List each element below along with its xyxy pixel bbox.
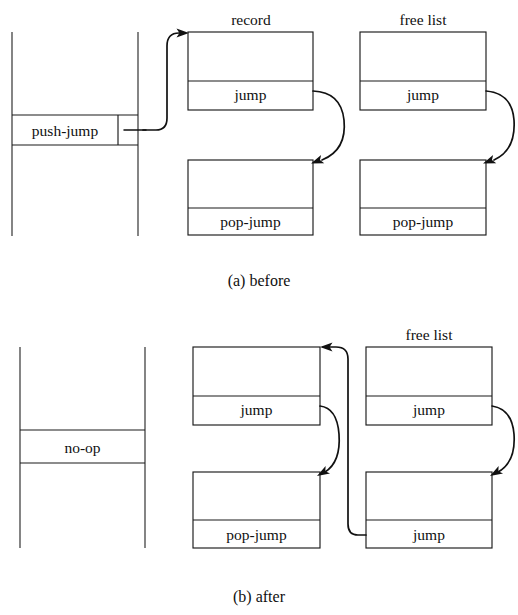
record-node-bottom-label: pop-jump	[226, 526, 287, 543]
link-record-curve	[320, 406, 339, 472]
link-freelist-bottom-to-record-top-after	[320, 343, 366, 535]
panel-before: push-jump record free list jump pop-jump	[12, 11, 514, 290]
record-node-top-label: jump	[240, 401, 273, 418]
link-record-arrowhead	[315, 466, 330, 480]
link-freelist-arrowhead	[481, 155, 496, 168]
freelist-node-top-after[interactable]: jump	[366, 347, 492, 425]
freelist-node-top-label: jump	[412, 401, 445, 418]
record-node-bottom-label: pop-jump	[220, 213, 281, 230]
caption-after: (b) after	[233, 588, 286, 606]
freelist-node-bottom-before[interactable]: pop-jump	[360, 160, 486, 235]
instruction-cell-no-op[interactable]: no-op	[20, 430, 145, 463]
freelist-node-bottom-after[interactable]: jump	[366, 472, 492, 548]
heading-record-before: record	[231, 11, 271, 28]
link-record-arrowhead	[309, 155, 324, 168]
freelist-node-top-before[interactable]: jump	[360, 32, 486, 110]
record-node-bottom-before[interactable]: pop-jump	[188, 160, 313, 235]
freelist-node-bottom-label: jump	[412, 526, 445, 543]
record-node-top-before[interactable]: jump	[188, 32, 313, 110]
caption-before: (a) before	[228, 272, 291, 290]
heading-free-list-before: free list	[400, 11, 448, 28]
panel-after: no-op free list jump pop-jump jump	[20, 326, 514, 606]
pointer-curve-to-record	[143, 33, 185, 130]
record-node-top-label: jump	[234, 86, 267, 103]
record-node-top-after[interactable]: jump	[193, 347, 320, 425]
link-record-top-to-bottom-before	[309, 91, 344, 168]
instruction-cell-push-jump[interactable]: push-jump	[12, 115, 138, 145]
freelist-node-top-label: jump	[406, 86, 439, 103]
record-node-bottom-after[interactable]: pop-jump	[193, 472, 320, 548]
link-long-curve	[323, 347, 366, 535]
link-freelist-curve	[486, 91, 514, 160]
freelist-node-bottom-label: pop-jump	[393, 213, 454, 230]
link-freelist-arrowhead	[488, 466, 503, 480]
instruction-cell-label: push-jump	[32, 122, 99, 139]
link-record-top-to-bottom-after	[315, 406, 339, 480]
link-record-curve	[313, 91, 344, 160]
link-freelist-curve	[492, 406, 514, 472]
heading-free-list-after: free list	[406, 326, 454, 343]
diagram-canvas: push-jump record free list jump pop-jump	[0, 0, 518, 615]
instruction-cell-label: no-op	[64, 439, 100, 456]
